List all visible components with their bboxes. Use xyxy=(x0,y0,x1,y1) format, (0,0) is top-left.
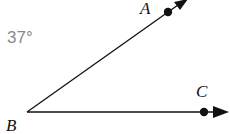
point-a-dot xyxy=(164,8,172,16)
point-a-label: A xyxy=(139,0,151,18)
vertex-b-label: B xyxy=(6,116,17,134)
angle-diagram: 37° A C B xyxy=(0,0,230,134)
ray-ba xyxy=(27,0,188,112)
ray-ba-line xyxy=(27,5,178,112)
angle-measure-label: 37° xyxy=(7,28,33,47)
ray-bc xyxy=(27,106,229,118)
point-c-label: C xyxy=(196,82,208,101)
ray-ba-arrowhead-icon xyxy=(174,0,188,10)
point-c-dot xyxy=(200,108,208,116)
ray-bc-arrowhead-icon xyxy=(213,106,229,118)
